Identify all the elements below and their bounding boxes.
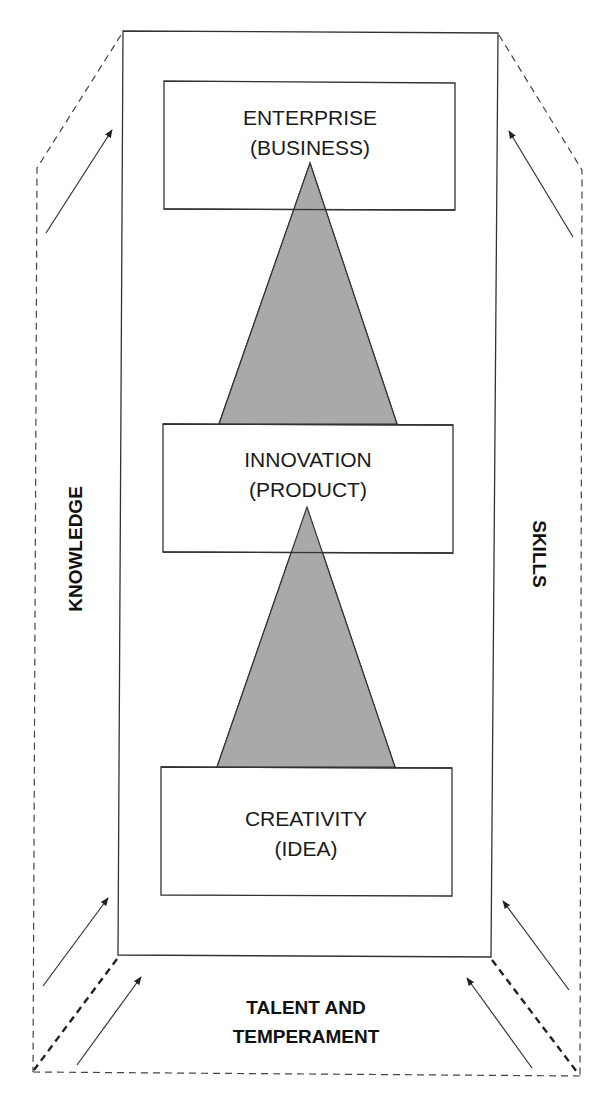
bottom-right-bold-dashed-edge	[492, 960, 577, 1072]
arrow-up-left-icon	[509, 131, 573, 237]
bottom-left-bold-dashed-edge	[34, 959, 117, 1070]
creativity-innovation-enterprise-diagram: ENTERPRISE (BUSINESS) INNOVATION (PRODUC…	[0, 0, 616, 1103]
stage-subtitle: (PRODUCT)	[249, 478, 367, 501]
side-label-skills: SKILLS	[529, 520, 550, 588]
arrow-up-right-icon	[77, 977, 141, 1065]
stage-title: ENTERPRISE	[243, 106, 377, 129]
side-label-knowledge: KNOWLEDGE	[65, 486, 86, 612]
innovation-box-bottom-edge	[163, 552, 453, 553]
stage-box-creativity: CREATIVITY (IDEA)	[161, 767, 452, 896]
arrow-up-right-icon	[46, 130, 112, 233]
connector-triangle-upper-tip	[219, 163, 397, 424]
arrow-up-left-icon	[503, 901, 569, 990]
arrow-up-right-icon	[43, 898, 108, 986]
arrow-up-left-icon	[467, 978, 532, 1068]
stage-subtitle: (IDEA)	[275, 837, 338, 860]
stage-title: CREATIVITY	[245, 807, 367, 830]
bottom-label-line2: TEMPERAMENT	[233, 1026, 380, 1047]
bottom-label-line1: TALENT AND	[246, 997, 365, 1018]
enterprise-box-bottom-edge	[164, 209, 455, 210]
stage-title: INNOVATION	[244, 448, 372, 471]
stage-subtitle: (BUSINESS)	[250, 136, 370, 159]
bottom-dashed-edge	[33, 1072, 580, 1076]
